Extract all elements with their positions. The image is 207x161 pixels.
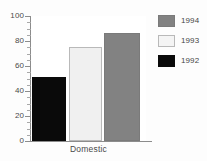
plot-area: [31, 16, 146, 141]
x-axis-line: [30, 141, 152, 142]
y-axis-label-80: 80: [2, 37, 24, 45]
legend-item-1993[interactable]: 1993: [158, 34, 206, 54]
y-tick-60: [25, 66, 31, 67]
legend-item-1994[interactable]: 1994: [158, 14, 206, 34]
y-minor-tick: [27, 54, 31, 55]
bar-1993[interactable]: [69, 47, 102, 141]
y-axis-label-60: 60: [2, 62, 24, 70]
y-minor-tick: [27, 135, 31, 136]
y-minor-tick: [27, 110, 31, 111]
y-tick-0: [25, 141, 31, 142]
y-minor-tick: [27, 79, 31, 80]
y-tick-40: [25, 91, 31, 92]
y-axis-label-0: 0: [2, 137, 24, 145]
y-minor-tick: [27, 72, 31, 73]
legend-label-1993: 1993: [181, 36, 199, 45]
y-minor-tick: [27, 35, 31, 36]
y-tick-80: [25, 41, 31, 42]
legend: 1994 1993 1992: [158, 14, 206, 74]
y-tick-20: [25, 116, 31, 117]
y-minor-tick: [27, 22, 31, 23]
x-axis-label: Domestic: [31, 144, 146, 154]
legend-label-1992: 1992: [181, 56, 199, 65]
bar-1994[interactable]: [104, 33, 140, 141]
y-minor-tick: [27, 47, 31, 48]
y-axis-label-20: 20: [2, 112, 24, 120]
legend-label-1994: 1994: [181, 16, 199, 25]
y-tick-100: [25, 16, 31, 17]
legend-swatch-1992-icon: [158, 55, 175, 67]
y-minor-tick: [27, 104, 31, 105]
legend-item-1992[interactable]: 1992: [158, 54, 206, 74]
y-minor-tick: [27, 97, 31, 98]
y-axis-label-40: 40: [2, 87, 24, 95]
legend-swatch-1994-icon: [158, 15, 175, 27]
y-minor-tick: [27, 85, 31, 86]
y-minor-tick: [27, 129, 31, 130]
y-minor-tick: [27, 122, 31, 123]
legend-swatch-1993-icon: [158, 35, 175, 47]
bar-chart: 100 80 60 40 20 0 Domestic 1994 1993 199…: [0, 0, 207, 161]
y-axis-label-100: 100: [2, 12, 24, 20]
y-minor-tick: [27, 29, 31, 30]
y-minor-tick: [27, 60, 31, 61]
bar-1992[interactable]: [32, 77, 66, 141]
